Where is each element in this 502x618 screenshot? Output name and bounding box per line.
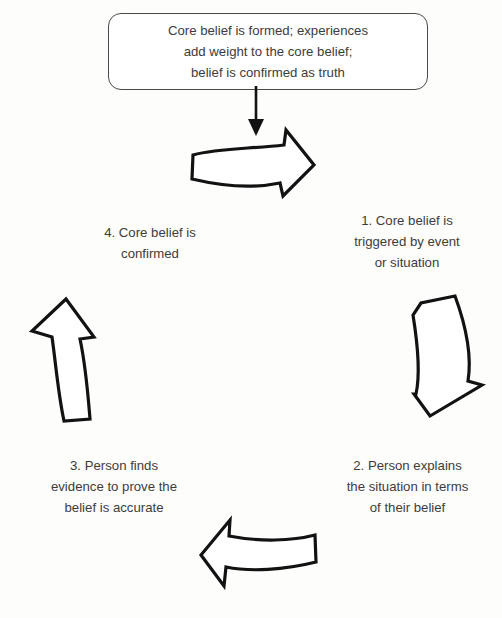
step-1-label: 1. Core belief is triggered by event or …	[322, 210, 492, 273]
arrow-up-curved-icon	[26, 293, 100, 427]
arrow-down-curved-icon	[406, 288, 486, 420]
step-3-label: 3. Person finds evidence to prove the be…	[18, 455, 210, 518]
arrow-right-curved-icon	[188, 126, 318, 200]
step-4-label: 4. Core belief is confirmed	[62, 222, 238, 264]
core-belief-formed-box: Core belief is formed; experiences add w…	[108, 13, 428, 90]
arrow-left-curved-icon	[196, 514, 320, 600]
step-2-label: 2. Person explains the situation in term…	[320, 455, 495, 518]
cycle-diagram: Core belief is formed; experiences add w…	[0, 0, 502, 618]
core-belief-formed-text: Core belief is formed; experiences add w…	[158, 20, 378, 83]
